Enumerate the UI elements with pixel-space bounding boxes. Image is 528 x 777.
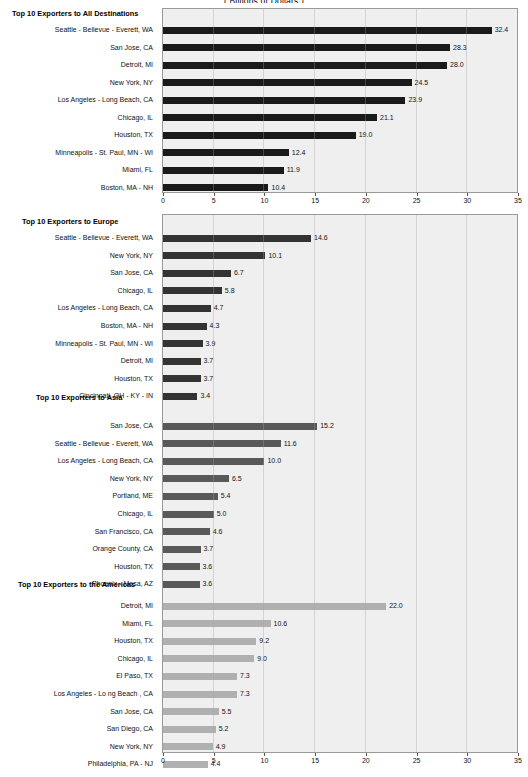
category-label: San Jose, CA	[0, 421, 157, 431]
category-label: Boston, MA - NH	[0, 183, 157, 193]
category-label: Miami, FL	[0, 165, 157, 175]
category-label: Chicago, IL	[0, 286, 157, 296]
axis-tick-label: 35	[514, 756, 522, 766]
gridline	[517, 215, 518, 752]
gridline	[365, 9, 366, 192]
chart-title: Top 10 Exporters to Asia	[0, 393, 157, 403]
axis-tick-label: 30	[463, 196, 471, 206]
category-label: San Jose, CA	[0, 268, 157, 278]
category-label: Los Angeles - Long Beach, CA	[0, 95, 157, 105]
category-label: Los Angeles - Long Beach, CA	[0, 456, 157, 466]
axis-tick-label: 10	[261, 756, 269, 766]
axis-tick-label: 20	[362, 196, 370, 206]
figure-suptitle: ( Billions of Dollars )	[0, 0, 528, 3]
category-label: Orange County, CA	[0, 544, 157, 554]
category-label: New York, NY	[0, 474, 157, 484]
gridline	[263, 215, 264, 752]
category-label: San Diego, CA	[0, 724, 157, 734]
axis-tick-label: 25	[413, 196, 421, 206]
gridline	[517, 9, 518, 192]
category-label: San Jose, CA	[0, 707, 157, 717]
gridline	[466, 9, 467, 192]
category-label: Detroit, MI	[0, 601, 157, 611]
category-label: Chicago, IL	[0, 509, 157, 519]
category-label: New York, NY	[0, 251, 157, 261]
category-label: Houston, TX	[0, 374, 157, 384]
category-label: Boston, MA - NH	[0, 321, 157, 331]
axis-tick-label: 10	[261, 196, 269, 206]
gridline	[416, 9, 417, 192]
chart-panel-regions	[162, 214, 518, 753]
category-label: Detroit, MI	[0, 356, 157, 366]
gridline	[263, 9, 264, 192]
category-label: Seattle - Bellevue - Everett, WA	[0, 233, 157, 243]
gridline	[213, 215, 214, 752]
category-label: Seattle - Bellevue - Everett, WA	[0, 25, 157, 35]
chart-title: Top 10 Exporters to the Americas	[0, 580, 157, 590]
axis-tick-label: 30	[463, 756, 471, 766]
category-label: Houston, TX	[0, 636, 157, 646]
axis-tick-label: 5	[212, 756, 216, 766]
axis-tick-label: 35	[514, 196, 522, 206]
axis-tick-label: 15	[311, 196, 319, 206]
axis-tick-label: 0	[161, 756, 165, 766]
category-label: Chicago, IL	[0, 654, 157, 664]
x-axis-americas: 05101520253035	[163, 753, 518, 767]
category-label: Detroit, MI	[0, 60, 157, 70]
axis-tick-label: 15	[311, 756, 319, 766]
category-label: Houston, TX	[0, 562, 157, 572]
gridline	[466, 215, 467, 752]
chart-panel-all-destinations	[162, 8, 518, 193]
category-label: Chicago, IL	[0, 113, 157, 123]
category-label: Houston, TX	[0, 130, 157, 140]
axis-tick-label: 0	[161, 196, 165, 206]
category-label: Los Angeles - Long Beach, CA	[0, 303, 157, 313]
category-label: New York, NY	[0, 742, 157, 752]
chart-title: Top 10 Exporters to All Destinations	[0, 9, 157, 19]
gridline	[314, 215, 315, 752]
category-label: Los Angeles - Lo ng Beach , CA	[0, 689, 157, 699]
category-label: Seattle - Bellevue - Everett, WA	[0, 439, 157, 449]
gridline	[365, 215, 366, 752]
category-label: San Francisco, CA	[0, 527, 157, 537]
gridline	[213, 9, 214, 192]
gridline	[416, 215, 417, 752]
category-label: Philadelphia, PA - NJ	[0, 759, 157, 769]
category-label: El Paso, TX	[0, 671, 157, 681]
axis-tick-label: 25	[413, 756, 421, 766]
chart-title: Top 10 Exporters to Europe	[0, 217, 157, 227]
category-label: Portland, ME	[0, 491, 157, 501]
axis-tick-label: 20	[362, 756, 370, 766]
axis-tick-label: 5	[212, 196, 216, 206]
category-label: Minneapolis - St. Paul, MN - WI	[0, 339, 157, 349]
category-label: Minneapolis - St. Paul, MN - WI	[0, 148, 157, 158]
category-label: Miami, FL	[0, 619, 157, 629]
category-label: San Jose, CA	[0, 43, 157, 53]
x-axis-all-destinations: 05101520253035	[163, 193, 518, 207]
gridline	[314, 9, 315, 192]
category-label: New York, NY	[0, 78, 157, 88]
